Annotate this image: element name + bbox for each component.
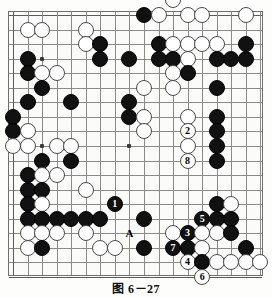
grid-line-horizontal: [9, 277, 262, 278]
stone-move-number: 1: [108, 197, 122, 211]
figure-caption: 图 6－27: [0, 279, 272, 297]
stone-black[interactable]: [92, 211, 108, 227]
stone-white[interactable]: [165, 80, 181, 96]
stone-black[interactable]: [92, 51, 108, 67]
stone-white[interactable]: [136, 123, 152, 139]
stone-move-1[interactable]: 1: [107, 196, 123, 212]
stone-white[interactable]: [165, 0, 181, 8]
stone-black[interactable]: [209, 153, 225, 169]
star-point: [40, 57, 44, 61]
stone-black[interactable]: [238, 51, 254, 67]
stone-black[interactable]: [63, 153, 79, 169]
board-marker-a: A: [125, 228, 133, 239]
stone-white[interactable]: [107, 240, 123, 256]
stone-white[interactable]: [34, 22, 50, 38]
stone-white[interactable]: [49, 167, 65, 183]
stone-black[interactable]: [34, 80, 50, 96]
stone-white[interactable]: [238, 7, 254, 23]
stone-move-number: 5: [195, 212, 209, 226]
stone-white[interactable]: [252, 254, 268, 270]
stone-black[interactable]: [121, 51, 137, 67]
grid-line-vertical: [115, 12, 116, 275]
stone-white[interactable]: [151, 7, 167, 23]
stone-move-8[interactable]: 8: [180, 153, 196, 169]
stone-white[interactable]: [49, 65, 65, 81]
stone-white[interactable]: [78, 225, 94, 241]
stone-white[interactable]: [20, 138, 36, 154]
stone-move-number: 4: [181, 255, 195, 269]
stone-black[interactable]: [180, 65, 196, 81]
stone-black[interactable]: [34, 240, 50, 256]
figure-container: 28153746A 图 6－27: [0, 0, 272, 298]
stone-move-number: 8: [181, 154, 195, 168]
stone-black[interactable]: [209, 80, 225, 96]
star-point: [40, 144, 44, 148]
stone-move-number: 7: [166, 241, 180, 255]
stone-move-number: 3: [181, 226, 195, 240]
stone-black[interactable]: [136, 240, 152, 256]
stone-white[interactable]: [78, 182, 94, 198]
stone-white[interactable]: [136, 80, 152, 96]
star-point: [127, 144, 131, 148]
stone-black[interactable]: [223, 225, 239, 241]
stone-black[interactable]: [136, 211, 152, 227]
stone-black[interactable]: [63, 94, 79, 110]
stone-white[interactable]: [194, 7, 210, 23]
stone-black[interactable]: [20, 94, 36, 110]
stone-move-number: 2: [181, 124, 195, 138]
stone-white[interactable]: [49, 225, 65, 241]
grid-line-vertical: [260, 12, 261, 275]
go-board[interactable]: 28153746A: [8, 11, 263, 276]
grid-line-vertical: [144, 12, 145, 275]
